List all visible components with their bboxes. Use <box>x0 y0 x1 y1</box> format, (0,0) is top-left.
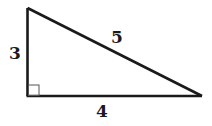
right-angle-marker <box>29 85 40 96</box>
hypotenuse <box>28 8 203 96</box>
label-horizontal-leg: 4 <box>96 101 108 121</box>
label-vertical-leg: 3 <box>9 43 21 63</box>
right-triangle-diagram: 3 5 4 <box>0 0 212 126</box>
label-hypotenuse: 5 <box>111 27 123 47</box>
